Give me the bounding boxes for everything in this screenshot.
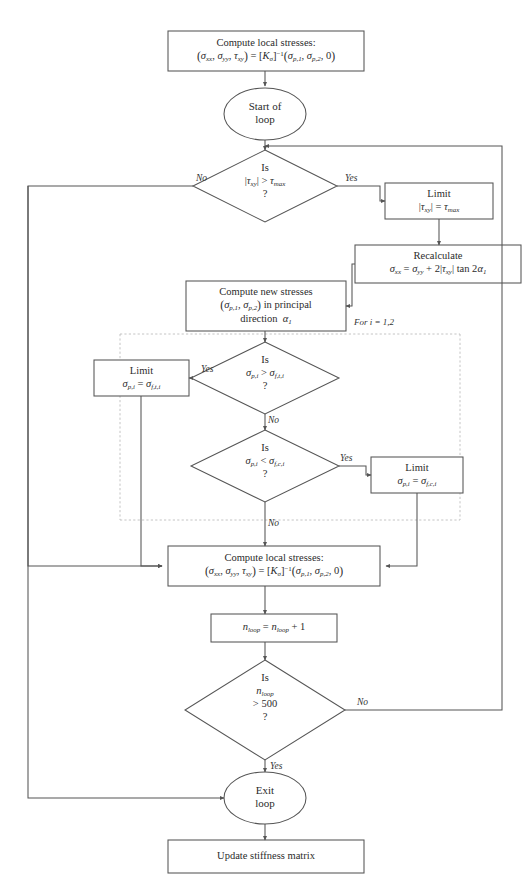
diamond-tau — [193, 150, 337, 222]
box-recalculate — [355, 245, 521, 283]
edge-label-tensile-yes: Yes — [201, 364, 213, 374]
region-label-for-loop: For i = 1,2 — [354, 317, 394, 327]
flowchart-canvas: Compute local stresses: (σxx, σyy, τxy) … — [0, 0, 528, 889]
diamond-compressive — [191, 430, 339, 502]
ellipse-start-loop — [224, 88, 306, 140]
edge-tau-yes — [337, 186, 385, 201]
box-update-stiffness — [168, 840, 364, 873]
edge-limittensile-down — [141, 396, 162, 566]
box-increment-loop — [211, 614, 337, 642]
box-limit-tau — [385, 183, 493, 219]
edge-label-compressive-yes: Yes — [340, 453, 352, 463]
edge-label-tau-no: No — [196, 173, 207, 183]
edge-recalc-to-newstress — [346, 264, 355, 306]
edge-label-compressive-no: No — [268, 518, 279, 528]
flowchart-graphics — [0, 0, 528, 889]
box-compute-local-stresses-bottom — [168, 546, 380, 586]
box-compute-new-stresses — [186, 281, 346, 331]
box-compute-local-stresses-top — [168, 31, 364, 71]
edge-label-nloop-no: No — [357, 697, 368, 707]
diamond-tensile — [191, 342, 339, 414]
edge-compressive-yes — [339, 466, 371, 475]
edge-label-nloop-yes: Yes — [270, 761, 282, 771]
diamond-nloop — [185, 660, 345, 760]
box-limit-tensile — [94, 360, 189, 396]
ellipse-exit-loop — [224, 772, 306, 824]
edge-label-tau-yes: Yes — [345, 173, 357, 183]
box-limit-compressive — [371, 457, 463, 493]
edge-label-tensile-no: No — [268, 415, 279, 425]
edge-limitcompressive-down — [386, 493, 417, 566]
